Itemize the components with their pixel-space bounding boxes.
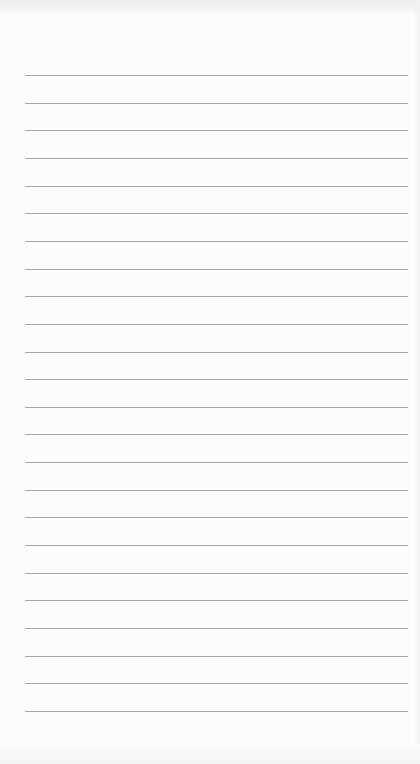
ruled-line [25,683,408,684]
ruled-line [25,213,408,214]
ruled-line [25,269,408,270]
ruled-line [25,600,408,601]
ruled-line [25,352,408,353]
ruled-line [25,517,408,518]
ruled-line [25,103,408,104]
ruled-line [25,324,408,325]
ruled-lines [25,0,408,764]
ruled-line [25,75,408,76]
right-edge-shadow [414,0,420,764]
ruled-line [25,628,408,629]
ruled-line [25,711,408,712]
ruled-line [25,407,408,408]
ruled-line [25,158,408,159]
ruled-line [25,379,408,380]
ruled-line [25,545,408,546]
ruled-line [25,656,408,657]
ruled-line [25,573,408,574]
ruled-line [25,130,408,131]
ruled-line [25,186,408,187]
ruled-line [25,241,408,242]
ruled-line [25,462,408,463]
ruled-line [25,434,408,435]
bottom-edge [0,744,420,764]
ruled-line [25,490,408,491]
notepad-page[interactable] [0,0,420,764]
ruled-line [25,296,408,297]
